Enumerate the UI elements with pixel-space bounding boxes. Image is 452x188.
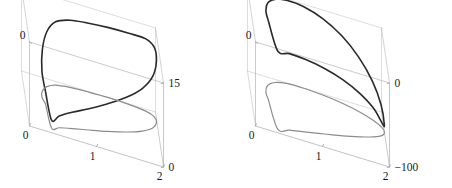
plot-box-wireframe [22, 0, 164, 167]
curves-group [266, 0, 384, 137]
figure-container: 01201015 012010−100 [0, 0, 452, 188]
box-edge-front-top [30, 42, 164, 83]
left-plot-panel: 01201015 [0, 0, 226, 188]
z-axis-tick-label-1: 15 [169, 77, 181, 89]
x-axis-tick-1 [97, 144, 98, 147]
x-axis-tick-1 [323, 144, 324, 147]
axis-ticks-group: 01201015 [12, 0, 181, 182]
box-edge-left-bottom-depth [248, 71, 256, 126]
z-axis-tick-0 [387, 83, 390, 84]
curve-floor-projection [266, 82, 384, 137]
box-edge-right-top-depth [382, 28, 390, 83]
z-axis-tick-1 [161, 83, 164, 84]
y-axis-tick-label-0: 0 [20, 29, 26, 41]
curve-solution-curve [42, 20, 157, 121]
left-plot-svg: 01201015 [0, 0, 226, 188]
box-edge-left-bottom-depth [22, 71, 30, 126]
x-axis-tick-label-2: 2 [383, 170, 389, 182]
y-axis-tick-label-0: 0 [246, 29, 252, 41]
box-edge-right-bottom-depth [382, 112, 390, 167]
right-plot-panel: 012010−100 [226, 0, 452, 188]
z-axis-tick-1 [387, 167, 390, 168]
curves-group [42, 20, 157, 132]
x-axis-tick-label-2: 2 [157, 170, 163, 182]
z-axis-tick-label-0: 0 [395, 77, 401, 89]
x-axis-tick-label-0: 0 [23, 129, 29, 141]
axis-ticks-group: 012010−100 [238, 0, 419, 182]
z-axis-tick-label-0: 0 [169, 161, 175, 173]
z-axis-tick-0 [161, 167, 164, 168]
curve-floor-projection [42, 85, 157, 132]
x-axis-tick-label-1: 1 [90, 150, 96, 162]
x-axis-tick-label-0: 0 [249, 129, 255, 141]
right-plot-svg: 012010−100 [226, 0, 452, 188]
x-axis-tick-label-1: 1 [316, 150, 322, 162]
z-axis-tick-label-1: −100 [395, 161, 419, 173]
